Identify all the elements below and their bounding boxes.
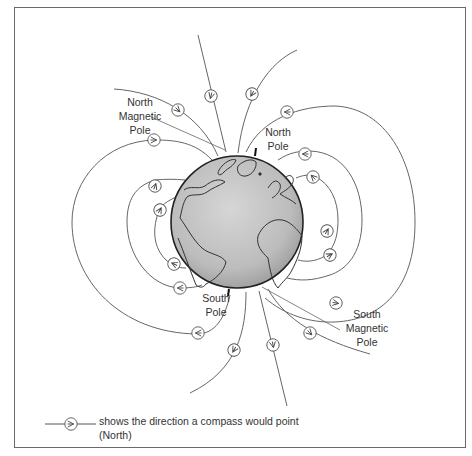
- compass-arrow-icon: [319, 223, 336, 240]
- compass-arrow-icon: [301, 324, 319, 342]
- compass-arrow-icon: [166, 256, 182, 272]
- legend-line-1: shows the direction a compass would poin…: [99, 414, 299, 428]
- label-south-magnetic-pole: South Magnetic Pole: [332, 307, 402, 349]
- compass-arrow-icon: [147, 178, 163, 194]
- compass-arrow-icon: [65, 418, 77, 430]
- label-south-pole: South Pole: [196, 291, 236, 319]
- compass-arrow-icon: [203, 88, 218, 103]
- label-north-magnetic-pole: North Magnetic Pole: [105, 95, 175, 137]
- label-north-pole: North Pole: [258, 125, 298, 153]
- compass-arrow-icon: [192, 327, 204, 339]
- north-pole-marker: [255, 148, 256, 156]
- compass-arrow-icon: [304, 168, 322, 186]
- earth-globe: [171, 148, 303, 296]
- compass-arrow-icon: [322, 247, 339, 264]
- compass-arrow-icon: [266, 338, 280, 352]
- legend-line-2: (North): [99, 428, 299, 442]
- legend-text: shows the direction a compass would poin…: [99, 414, 299, 442]
- legend-symbol: [45, 418, 96, 430]
- compass-arrow-icon: [299, 148, 311, 160]
- compass-arrow-icon: [226, 342, 243, 359]
- compass-arrow-icon: [152, 202, 169, 219]
- compass-arrow-icon: [174, 282, 186, 294]
- magnetic-field-diagram: [0, 0, 472, 456]
- compass-arrow-icon: [281, 106, 293, 118]
- island-dot: [259, 173, 261, 175]
